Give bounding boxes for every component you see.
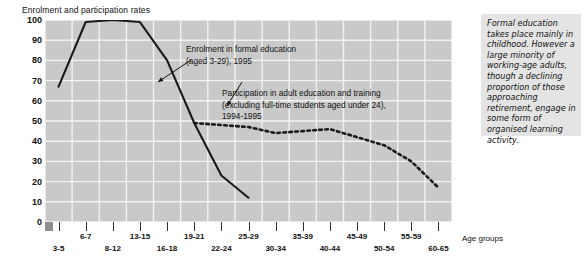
y-tick-label: 90	[18, 35, 42, 45]
x-tick-mark	[167, 222, 168, 231]
chart-title: Enrolment and participation rates	[22, 5, 150, 15]
y-tick-label: 50	[18, 116, 42, 126]
x-tick-label: 50-54	[374, 244, 394, 253]
y-tick-label: 80	[18, 55, 42, 65]
annotation-enrolment-line2: (aged 3-29), 1995	[186, 56, 296, 68]
x-tick-label: 19-21	[184, 232, 204, 241]
x-tick-label: 22-24	[211, 244, 231, 253]
x-tick-label: 30-34	[265, 244, 285, 253]
y-tick-label: 30	[18, 156, 42, 166]
y-tick-label: 60	[18, 96, 42, 106]
x-tick-label: 45-49	[347, 232, 367, 241]
x-tick-label: 40-44	[320, 244, 340, 253]
x-tick-mark	[59, 222, 60, 231]
x-tick-label: 13-15	[130, 232, 150, 241]
chart-figure: Enrolment and participation rates 010203…	[0, 0, 588, 272]
x-tick-mark	[438, 222, 439, 231]
side-note: Formal education takes place mainly in c…	[481, 14, 581, 136]
x-tick-label: 35-39	[293, 232, 313, 241]
x-tick-mark	[384, 222, 385, 231]
x-tick-mark	[276, 222, 277, 231]
y-tick-label: 40	[18, 136, 42, 146]
x-axis: 3-56-78-1213-1516-1819-2122-2425-2930-34…	[45, 222, 452, 268]
x-tick-mark	[140, 222, 141, 231]
x-axis-title: Age groups	[462, 234, 503, 243]
x-tick-mark	[303, 222, 304, 231]
x-tick-mark	[411, 222, 412, 231]
annotation-enrolment-line1: Enrolment in formal education	[186, 44, 296, 56]
x-tick-label: 25-29	[238, 232, 258, 241]
annotation-enrolment: Enrolment in formal education (aged 3-29…	[186, 44, 296, 67]
annotation-participation: Participation in adult education and tra…	[222, 88, 386, 123]
x-tick-mark	[357, 222, 358, 231]
x-tick-label: 55-59	[401, 232, 421, 241]
x-tick-mark	[330, 222, 331, 231]
x-tick-mark	[113, 222, 114, 231]
x-tick-label: 16-18	[157, 244, 177, 253]
y-tick-label: 100	[18, 15, 42, 25]
y-axis: 0102030405060708090100	[14, 20, 42, 222]
x-tick-label: 60-65	[428, 244, 448, 253]
arrow-enrolment-head	[158, 77, 163, 82]
x-tick-mark	[86, 222, 87, 231]
annotation-participation-line3: 1994-1995	[222, 111, 386, 123]
x-tick-mark	[249, 222, 250, 231]
x-tick-label: 8-12	[105, 244, 121, 253]
x-tick-label: 3-5	[53, 244, 65, 253]
y-tick-label: 10	[18, 197, 42, 207]
annotation-participation-line2: (excluding full-time students aged under…	[222, 100, 386, 112]
annotation-participation-line1: Participation in adult education and tra…	[222, 88, 386, 100]
x-tick-mark	[194, 222, 195, 231]
y-tick-label: 0	[18, 217, 42, 227]
y-tick-label: 70	[18, 76, 42, 86]
y-tick-label: 20	[18, 177, 42, 187]
x-tick-label: 6-7	[80, 232, 92, 241]
x-tick-mark	[221, 222, 222, 231]
